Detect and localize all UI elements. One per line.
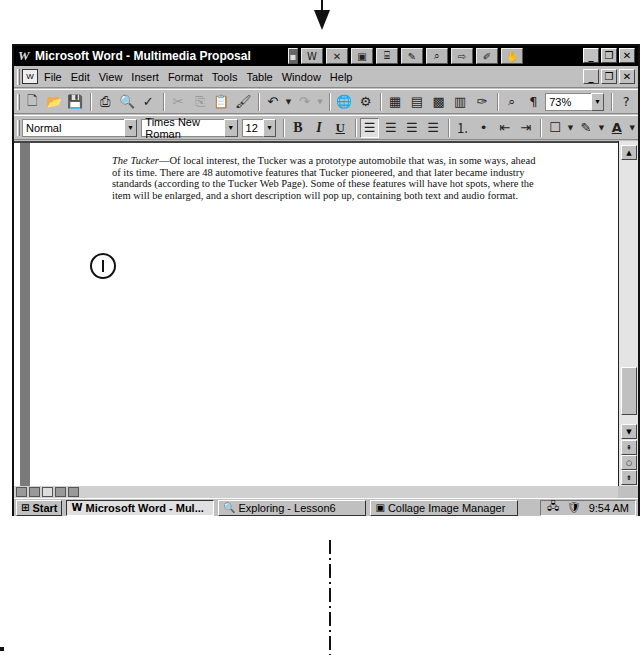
doc-restore-button[interactable]: ❐ [601, 69, 617, 84]
borders-icon[interactable]: ☐ [545, 118, 564, 138]
menu-help[interactable]: Help [330, 71, 353, 83]
highlight-icon[interactable]: ✎ [576, 118, 595, 138]
close-button[interactable]: ✕ [619, 48, 635, 63]
next-page-icon[interactable]: ⇟ [621, 470, 637, 485]
normal-view-icon[interactable] [16, 487, 27, 497]
insert-excel-icon[interactable]: ▩ [429, 92, 449, 112]
style-dropdown-icon[interactable]: ▼ [124, 119, 138, 137]
borders-dropdown-icon[interactable]: ▼ [567, 118, 575, 138]
horizontal-scrollbar[interactable] [14, 486, 618, 498]
align-left-icon[interactable]: ☰ [360, 118, 379, 138]
font-combo[interactable]: Times New Roman [141, 119, 224, 137]
outline-view-icon[interactable] [55, 487, 66, 497]
toolbar-grip[interactable] [17, 94, 20, 110]
word-icon[interactable]: W [301, 48, 323, 64]
zoom-dropdown-icon[interactable]: ▼ [591, 93, 605, 111]
start-button[interactable]: ⊞ Start [16, 500, 62, 516]
document-area[interactable]: The Tucker—Of local interest, the Tucker… [14, 141, 618, 486]
zoom-combo[interactable]: 73% [545, 93, 590, 111]
clock[interactable]: 9:54 AM [589, 502, 629, 514]
columns-icon[interactable]: ▥ [450, 92, 470, 112]
select-browse-object-icon[interactable]: ○ [621, 455, 637, 470]
task-word[interactable]: W Microsoft Word - Mul... [66, 500, 214, 516]
doc-minimize-button[interactable]: _ [583, 69, 599, 84]
network-icon[interactable]: 🖧 [547, 498, 559, 517]
schedule-icon[interactable]: ✎ [401, 48, 423, 64]
document-map-icon[interactable]: ⌕ [502, 92, 522, 112]
previous-page-icon[interactable]: ⇞ [621, 440, 637, 455]
italic-button[interactable]: I [309, 118, 328, 138]
find-icon[interactable]: ⌕ [426, 48, 448, 64]
access-icon[interactable]: ⌸ [376, 48, 398, 64]
style-combo[interactable]: Normal [22, 119, 124, 137]
doc-close-button[interactable]: ✕ [619, 69, 635, 84]
justify-icon[interactable]: ☰ [424, 118, 443, 138]
menu-insert[interactable]: Insert [131, 71, 159, 83]
title-bar[interactable]: W Microsoft Word - Multimedia Proposal ▪… [14, 46, 638, 66]
font-color-dropdown-icon[interactable]: ▼ [628, 118, 636, 138]
page-layout-view-icon[interactable] [42, 487, 53, 497]
office-bar-menu-icon[interactable]: ▪ [288, 48, 298, 64]
underline-button[interactable]: U [331, 118, 350, 138]
scroll-up-icon[interactable]: ▲ [621, 145, 637, 160]
bullets-icon[interactable]: • [474, 118, 493, 138]
font-dropdown-icon[interactable]: ▼ [224, 119, 238, 137]
print-preview-icon[interactable]: 🔍 [117, 92, 137, 112]
show-hide-icon[interactable]: ¶ [523, 92, 543, 112]
save-icon[interactable]: 💾 [65, 92, 85, 112]
help-icon[interactable]: ? [616, 92, 636, 112]
binder-icon[interactable]: ⇨ [451, 48, 473, 64]
task-collage[interactable]: ▣ Collage Image Manager [370, 500, 518, 516]
bold-button[interactable]: B [288, 118, 307, 138]
document-paragraph[interactable]: The Tucker—Of local interest, the Tucker… [112, 155, 542, 201]
decrease-indent-icon[interactable]: ⇤ [495, 118, 514, 138]
redo-dropdown-icon[interactable]: ▼ [316, 92, 324, 112]
undo-dropdown-icon[interactable]: ▼ [285, 92, 293, 112]
undo-icon[interactable]: ↶ [263, 92, 283, 112]
drawing-icon[interactable]: ✑ [472, 92, 492, 112]
toolbar-grip[interactable] [17, 120, 20, 136]
menu-edit[interactable]: Edit [71, 71, 90, 83]
menu-format[interactable]: Format [168, 71, 203, 83]
new-document-icon[interactable]: 🗋 [22, 92, 42, 112]
paste-icon[interactable]: 📋 [211, 92, 231, 112]
font-color-icon[interactable]: A [607, 118, 626, 138]
document-icon[interactable]: W [22, 69, 38, 84]
scroll-thumb[interactable] [621, 367, 637, 415]
highlight-dropdown-icon[interactable]: ▼ [597, 118, 605, 138]
powerpoint-icon[interactable]: ▣ [351, 48, 373, 64]
menu-file[interactable]: File [44, 71, 62, 83]
font-size-dropdown-icon[interactable]: ▼ [263, 119, 277, 137]
excel-icon[interactable]: ✕ [326, 48, 348, 64]
minimize-button[interactable]: _ [583, 48, 599, 63]
align-center-icon[interactable]: ☰ [381, 118, 400, 138]
insert-hyperlink-icon[interactable]: 🌐 [334, 92, 354, 112]
maximize-button[interactable]: ❐ [601, 48, 617, 63]
menu-view[interactable]: View [99, 71, 123, 83]
toolbar-grip[interactable] [17, 69, 20, 85]
redo-icon[interactable]: ↷ [294, 92, 314, 112]
web-layout-view-icon[interactable] [29, 487, 40, 497]
insert-table-icon[interactable]: ▤ [407, 92, 427, 112]
increase-indent-icon[interactable]: ⇥ [516, 118, 535, 138]
scroll-down-icon[interactable]: ▼ [621, 424, 637, 439]
vertical-scrollbar[interactable]: ▲ ▼ ⇞ ○ ⇟ [618, 141, 638, 486]
open-folder-icon[interactable]: 📂 [44, 92, 64, 112]
print-icon[interactable]: ⎙ [95, 92, 115, 112]
web-toolbar-icon[interactable]: ⚙ [356, 92, 376, 112]
copy-icon[interactable]: ⎘ [190, 92, 210, 112]
office-assistant-icon[interactable]: ✋ [501, 48, 523, 64]
menu-window[interactable]: Window [282, 71, 321, 83]
tables-borders-icon[interactable]: ▦ [385, 92, 405, 112]
format-painter-icon[interactable]: 🖌 [233, 92, 253, 112]
menu-table[interactable]: Table [246, 71, 272, 83]
task-exploring[interactable]: 🔍 Exploring - Lesson6 [218, 500, 366, 516]
spelling-icon[interactable]: ✓ [138, 92, 158, 112]
cut-icon[interactable]: ✂ [168, 92, 188, 112]
font-size-combo[interactable]: 12 [242, 119, 263, 137]
scroll-left-icon[interactable] [68, 487, 79, 497]
shield-icon[interactable]: 🛡 [567, 501, 581, 514]
align-right-icon[interactable]: ☰ [402, 118, 421, 138]
menu-tools[interactable]: Tools [212, 71, 238, 83]
answer-wizard-icon[interactable]: ✐ [476, 48, 498, 64]
